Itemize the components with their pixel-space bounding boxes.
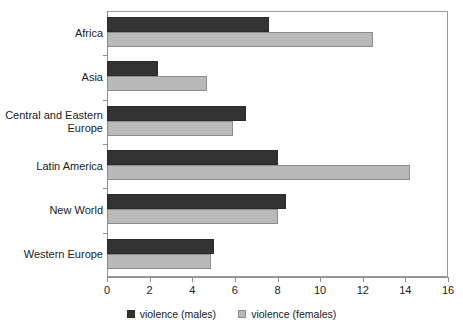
x-axis-tick <box>150 277 151 282</box>
x-axis-tick <box>278 277 279 282</box>
bar-females <box>107 209 278 224</box>
bar-group <box>107 233 448 277</box>
bar-females <box>107 165 410 180</box>
category-label: Asia <box>0 71 103 84</box>
category-tick <box>103 100 108 101</box>
x-axis-tick-label: 14 <box>390 284 420 296</box>
category-tick <box>103 55 108 56</box>
chart-page: AfricaAsiaCentral and EasternEuropeLatin… <box>0 0 463 332</box>
category-axis-labels: AfricaAsiaCentral and EasternEuropeLatin… <box>0 11 103 277</box>
legend-label: violence (females) <box>251 308 336 320</box>
x-axis-tick-label: 2 <box>135 284 165 296</box>
x-axis-tick-label: 10 <box>305 284 335 296</box>
x-axis-tick <box>320 277 321 282</box>
bar-group <box>107 100 448 144</box>
category-label: Africa <box>0 27 103 40</box>
x-axis-tick <box>235 277 236 282</box>
x-axis-tick <box>405 277 406 282</box>
bar-females <box>107 32 373 47</box>
category-tick <box>103 188 108 189</box>
x-axis-tick <box>107 277 108 282</box>
category-tick <box>103 233 108 234</box>
bar-males <box>107 106 246 121</box>
bar-males <box>107 150 278 165</box>
bar-females <box>107 254 211 269</box>
x-axis-tick-label: 0 <box>92 284 122 296</box>
bar-group <box>107 11 448 55</box>
bar-group <box>107 144 448 188</box>
x-axis-tick <box>363 277 364 282</box>
bar-males <box>107 17 269 32</box>
category-label: Latin America <box>0 160 103 173</box>
bar-females <box>107 121 233 136</box>
x-axis-tick <box>448 277 449 282</box>
bar-males <box>107 61 158 76</box>
bar-males <box>107 239 214 254</box>
legend-label: violence (males) <box>140 308 216 320</box>
bar-group <box>107 55 448 99</box>
legend-item: violence (females) <box>238 308 336 320</box>
x-axis-tick-label: 12 <box>348 284 378 296</box>
legend-swatch-icon <box>238 310 246 318</box>
legend-item: violence (males) <box>127 308 216 320</box>
bars-area <box>107 11 448 277</box>
x-axis-tick <box>192 277 193 282</box>
bar-males <box>107 194 286 209</box>
x-axis-tick-label: 6 <box>220 284 250 296</box>
category-label: Central and EasternEurope <box>0 109 103 135</box>
x-axis-tick-label: 4 <box>177 284 207 296</box>
chart-legend: violence (males)violence (females) <box>0 308 463 320</box>
x-axis-tick-label: 8 <box>263 284 293 296</box>
category-label: Western Europe <box>0 248 103 261</box>
x-axis-tick-label: 16 <box>433 284 463 296</box>
category-label: New World <box>0 204 103 217</box>
category-tick <box>103 144 108 145</box>
bar-females <box>107 76 207 91</box>
bar-group <box>107 188 448 232</box>
legend-swatch-icon <box>127 310 135 318</box>
